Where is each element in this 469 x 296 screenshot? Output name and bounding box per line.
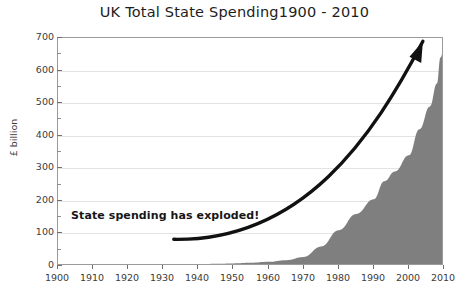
x-tick-mark xyxy=(197,265,198,269)
x-tick-mark xyxy=(268,265,269,269)
y-tick-mark xyxy=(57,200,62,201)
x-tick-mark xyxy=(232,265,233,269)
y-tick-minor xyxy=(57,249,61,250)
y-tick-minor xyxy=(57,118,61,119)
y-tick-minor xyxy=(57,184,61,185)
x-tick-mark xyxy=(57,265,58,269)
x-tick-label: 2010 xyxy=(420,272,466,283)
x-tick-mark xyxy=(127,265,128,269)
plot-area xyxy=(57,37,443,265)
x-tick-mark xyxy=(338,265,339,269)
x-tick-mark xyxy=(162,265,163,269)
y-tick-mark xyxy=(57,232,62,233)
x-tick-mark xyxy=(303,265,304,269)
y-tick-mark xyxy=(57,102,62,103)
y-tick-label: 200 xyxy=(14,194,54,205)
y-tick-label: 300 xyxy=(14,161,54,172)
page-title: UK Total State Spending1900 - 2010 xyxy=(0,4,469,20)
y-tick-mark xyxy=(57,135,62,136)
y-tick-label: 600 xyxy=(14,64,54,75)
y-tick-minor xyxy=(57,53,61,54)
y-tick-label: 100 xyxy=(14,226,54,237)
y-tick-label: 400 xyxy=(14,129,54,140)
y-tick-minor xyxy=(57,86,61,87)
y-tick-label: 500 xyxy=(14,96,54,107)
y-tick-label: 700 xyxy=(14,31,54,42)
y-tick-mark xyxy=(57,37,62,38)
x-tick-mark xyxy=(443,265,444,269)
growth-arrow xyxy=(58,38,443,265)
x-tick-mark xyxy=(373,265,374,269)
y-tick-minor xyxy=(57,151,61,152)
y-tick-minor xyxy=(57,216,61,217)
chart-figure: UK Total State Spending1900 - 2010 £ bil… xyxy=(0,0,469,296)
y-tick-mark xyxy=(57,167,62,168)
annotation-text: State spending has exploded! xyxy=(71,209,259,222)
x-tick-mark xyxy=(92,265,93,269)
y-tick-mark xyxy=(57,70,62,71)
x-tick-mark xyxy=(408,265,409,269)
y-tick-label: 0 xyxy=(14,259,54,270)
